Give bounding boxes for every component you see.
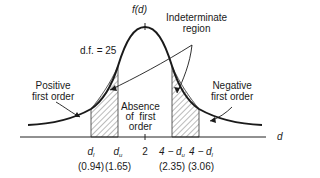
positive-first-order-label: Positive first order xyxy=(32,80,74,102)
tick-label-two: 2 xyxy=(139,146,151,157)
tick-label-four-minus-d-lower: 4 − dl (3.06) xyxy=(186,146,216,172)
degrees-of-freedom-label: d.f. = 25 xyxy=(80,45,116,56)
x-axis-label: d xyxy=(277,131,283,142)
absence-first-order-label: Absence of first order xyxy=(121,102,160,132)
indeterminate-region-label: Indeterminate region xyxy=(166,12,227,34)
negative-first-order-label: Negative first order xyxy=(211,80,253,102)
tick-label-d-upper: du (1.65) xyxy=(105,146,131,172)
tick-label-d-lower: dl (0.94) xyxy=(78,146,104,172)
tick-label-four-minus-d-upper: 4 − du (2.35) xyxy=(157,146,187,172)
y-axis-label: f(d) xyxy=(132,4,147,15)
